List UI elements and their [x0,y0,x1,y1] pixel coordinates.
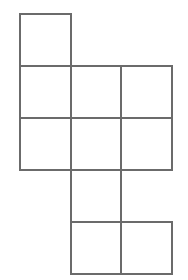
square-r2c2 [121,118,172,170]
square-r3c1 [71,170,122,222]
cube-net-figure [0,0,188,280]
square-r4c1 [71,222,122,274]
cube-net-diagram [0,0,188,280]
square-r1c2 [121,66,172,118]
square-r4c2 [121,222,172,274]
square-r1c0 [20,66,71,118]
square-r0c0 [20,14,71,66]
square-r1c1 [71,66,122,118]
square-r2c0 [20,118,71,170]
square-r2c1 [71,118,122,170]
